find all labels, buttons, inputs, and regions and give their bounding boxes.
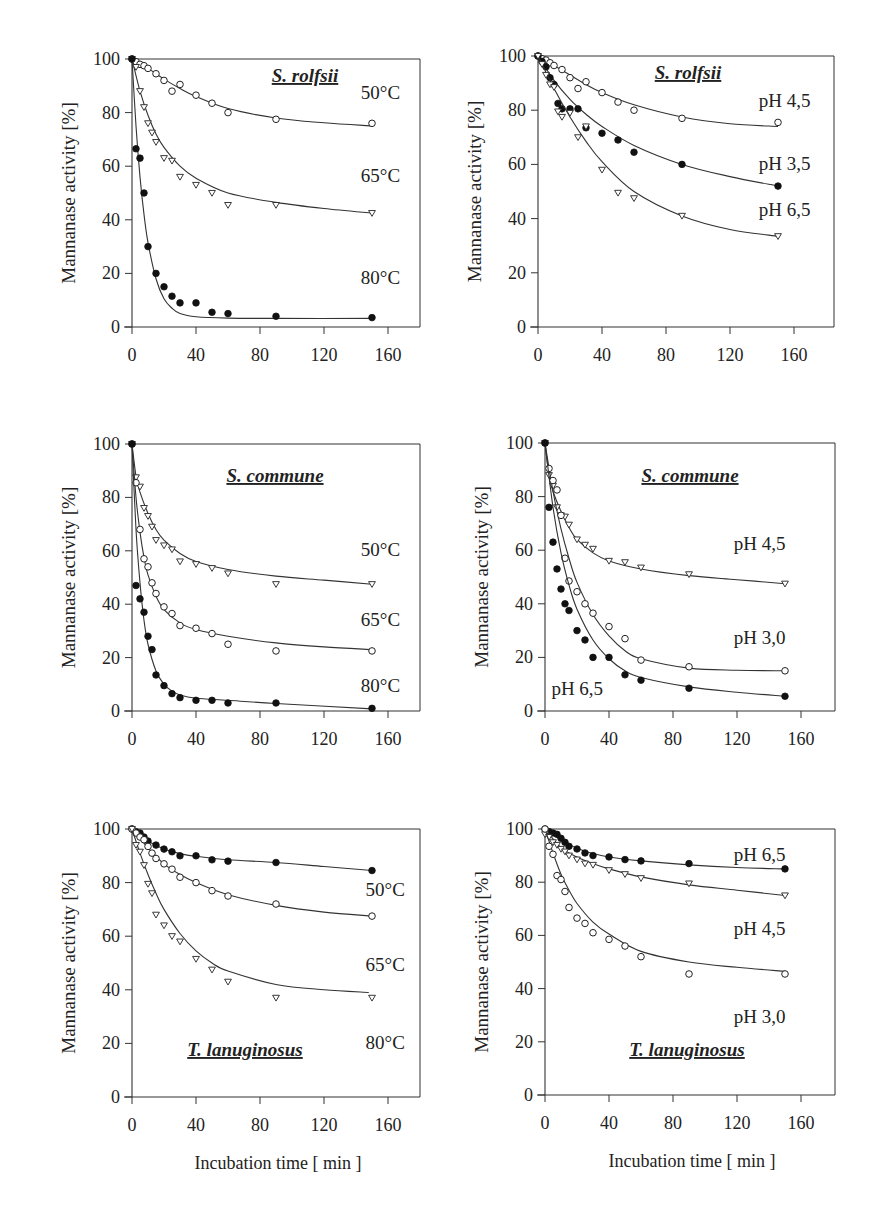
open-circle-marker: [149, 580, 156, 587]
y-axis-label: Mannanase activity [%]: [58, 102, 79, 283]
x-tick-label: 80: [664, 1113, 682, 1133]
open-circle-marker: [559, 66, 566, 73]
series-label: pH 3,0: [734, 1006, 786, 1027]
filled-circle-marker: [369, 705, 376, 712]
y-tick-label: 100: [499, 46, 526, 66]
x-tick-label: 120: [717, 345, 744, 365]
y-tick-label: 0: [524, 1085, 533, 1105]
filled-circle-marker: [129, 441, 136, 448]
open-triangle-marker: [599, 167, 606, 173]
y-tick-label: 80: [515, 487, 533, 507]
open-circle-marker: [631, 107, 638, 114]
y-tick-label: 40: [102, 210, 120, 230]
filled-circle-marker: [137, 155, 144, 162]
filled-circle-marker: [582, 637, 589, 644]
filled-circle-marker: [562, 601, 569, 608]
open-triangle-marker: [137, 849, 144, 855]
series-label: pH 4,5: [734, 533, 786, 554]
series-label: 50°C: [361, 82, 400, 103]
open-circle-marker: [679, 115, 686, 122]
species-title: T. lanuginosus: [629, 1039, 744, 1060]
species-title: S. rolfsii: [655, 62, 722, 83]
open-circle-marker: [161, 861, 168, 868]
y-axis-label: Mannanase activity [%]: [471, 871, 492, 1052]
filled-circle-marker: [161, 284, 168, 291]
filled-circle-marker: [177, 300, 184, 307]
x-tick-label: 160: [788, 729, 815, 749]
filled-circle-marker: [153, 842, 160, 849]
y-tick-label: 20: [102, 1033, 120, 1053]
filled-circle-marker: [149, 646, 156, 653]
open-triangle-marker: [551, 85, 558, 91]
y-tick-label: 20: [102, 648, 120, 668]
filled-circle-marker: [177, 853, 184, 860]
fit-curve: [132, 829, 369, 992]
series-label: 80°C: [366, 1032, 405, 1053]
x-tick-label: 160: [375, 729, 402, 749]
open-triangle-marker: [559, 114, 566, 120]
filled-circle-marker: [582, 850, 589, 857]
fit-curve: [132, 829, 372, 916]
filled-circle-marker: [225, 700, 232, 707]
open-circle-marker: [558, 876, 565, 883]
series-label: pH 6,5: [759, 199, 811, 220]
series-ph-6-5: pH 6,5: [542, 826, 789, 873]
series-50-c: 50°C: [129, 441, 400, 587]
open-circle-marker: [546, 465, 553, 472]
species-title: S. rolfsii: [272, 65, 339, 86]
open-triangle-marker: [209, 566, 216, 572]
open-triangle-marker: [631, 196, 638, 202]
open-triangle-marker: [209, 967, 216, 973]
open-circle-marker: [153, 590, 160, 597]
series-label: pH 4,5: [734, 918, 786, 939]
y-tick-label: 100: [93, 434, 120, 454]
open-circle-marker: [583, 78, 590, 85]
chart-canvas: 02040608010004080120160Mannanase activit…: [0, 0, 883, 1225]
filled-circle-marker: [606, 854, 613, 861]
y-tick-label: 40: [102, 594, 120, 614]
filled-circle-marker: [137, 596, 144, 603]
y-tick-label: 0: [111, 1087, 120, 1107]
open-circle-marker: [145, 843, 152, 850]
filled-circle-marker: [133, 582, 140, 589]
open-triangle-marker: [606, 868, 613, 874]
open-triangle-marker: [782, 893, 789, 899]
y-tick-label: 20: [508, 263, 526, 283]
filled-circle-marker: [193, 300, 200, 307]
open-triangle-marker: [153, 140, 160, 146]
y-tick-label: 80: [102, 487, 120, 507]
open-triangle-marker: [141, 863, 148, 869]
open-triangle-marker: [775, 234, 782, 240]
series-50-c: 50°C: [129, 826, 405, 900]
y-axis-label: Mannanase activity [%]: [471, 486, 492, 667]
open-circle-marker: [193, 625, 200, 632]
x-tick-label: 0: [128, 1115, 137, 1135]
open-circle-marker: [225, 641, 232, 648]
series-label: pH 4,5: [759, 90, 811, 111]
filled-circle-marker: [590, 654, 597, 661]
open-triangle-marker: [169, 934, 176, 940]
x-tick-label: 80: [251, 729, 269, 749]
series-label: 80°C: [361, 267, 400, 288]
open-triangle-marker: [177, 559, 184, 565]
filled-circle-marker: [273, 700, 280, 707]
series-80-c: 80°C: [129, 826, 405, 1052]
open-circle-marker: [574, 588, 581, 595]
open-triangle-marker: [575, 135, 582, 141]
species-title: T. lanuginosus: [187, 1039, 302, 1060]
open-triangle-marker: [161, 156, 168, 162]
filled-circle-marker: [369, 314, 376, 321]
x-tick-label: 120: [311, 345, 338, 365]
y-tick-label: 20: [515, 1032, 533, 1052]
open-triangle-marker: [686, 881, 693, 887]
open-circle-marker: [606, 623, 613, 630]
x-axis-label: Incubation time [ min ]: [609, 1151, 776, 1171]
series-65-c: 65°C: [129, 826, 405, 975]
y-axis-label: Mannanase activity [%]: [58, 872, 79, 1053]
filled-circle-marker: [273, 859, 280, 866]
x-tick-label: 80: [251, 1115, 269, 1135]
y-axis-label: Mannanase activity [%]: [464, 101, 485, 282]
filled-circle-marker: [169, 690, 176, 697]
open-circle-marker: [782, 971, 789, 978]
series-label: pH 6,5: [734, 844, 786, 865]
